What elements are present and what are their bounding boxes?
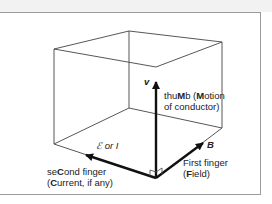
thumb-label-bold: M <box>196 90 204 101</box>
first-finger-text: ield) <box>192 168 210 179</box>
second-finger-label: seCond finger (Current, if any) <box>47 166 113 188</box>
thumb-label-text: thu <box>164 90 177 101</box>
first-finger-line1: First finger <box>183 157 228 168</box>
v-symbol: v <box>144 76 149 87</box>
second-finger-text: urrent, if any) <box>57 177 113 188</box>
thumb-label-text: otion <box>204 90 225 101</box>
emf-symbol: ℰ or I <box>96 140 118 151</box>
thumb-label-bold: M <box>177 90 185 101</box>
b-symbol: B <box>207 139 214 150</box>
second-finger-text: ond finger <box>64 166 106 177</box>
second-finger-bold: C <box>57 166 64 177</box>
first-finger-label: First finger (Field) <box>183 157 228 179</box>
thumb-label: thuMb (Motion of conductor) <box>164 90 225 112</box>
cube-diagram <box>0 0 272 204</box>
thumb-label-line2: of conductor) <box>164 101 219 112</box>
second-finger-text: se <box>47 166 57 177</box>
thumb-label-text: b ( <box>185 90 196 101</box>
